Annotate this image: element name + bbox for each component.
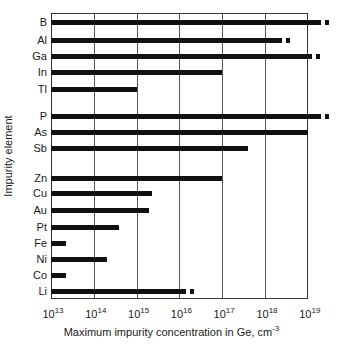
y-label-in: In xyxy=(38,66,47,78)
y-label-fe: Fe xyxy=(34,237,47,249)
extension-marker xyxy=(325,114,329,119)
bar-au xyxy=(51,208,149,213)
y-label-pt: Pt xyxy=(37,221,47,233)
y-label-al: Al xyxy=(37,34,47,46)
bar-pt xyxy=(51,225,119,230)
y-label-ga: Ga xyxy=(32,50,47,62)
bar-co xyxy=(51,273,66,278)
y-label-ni: Ni xyxy=(37,253,47,265)
x-tick-label: 1014 xyxy=(85,306,106,320)
y-label-au: Au xyxy=(34,204,47,216)
y-label-tl: Tl xyxy=(38,83,47,95)
y-label-sb: Sb xyxy=(34,142,47,154)
y-label-cu: Cu xyxy=(33,187,47,199)
x-tick-label: 1016 xyxy=(171,306,192,320)
y-axis-title: Impurity element xyxy=(2,115,14,196)
x-tick-label: 1017 xyxy=(214,306,235,320)
bar-cu xyxy=(51,191,152,196)
y-label-co: Co xyxy=(33,269,47,281)
x-axis-title-text: Maximum impurity concentration in Ge, cm xyxy=(64,326,272,338)
bar-li xyxy=(51,289,186,294)
bar-as xyxy=(51,130,308,135)
bar-tl xyxy=(51,87,137,92)
bar-ni xyxy=(51,257,107,262)
bar-fe xyxy=(51,241,66,246)
x-tick-label: 1015 xyxy=(128,306,149,320)
y-label-as: As xyxy=(34,126,47,138)
bar-in xyxy=(51,70,222,75)
extension-marker xyxy=(325,20,329,25)
y-label-li: Li xyxy=(38,285,47,297)
y-label-b: B xyxy=(40,16,47,28)
x-tick-label: 1019 xyxy=(299,306,320,320)
bar-p xyxy=(51,114,321,119)
y-label-zn: Zn xyxy=(34,172,47,184)
bar-b xyxy=(51,20,321,25)
x-tick-label: 1018 xyxy=(256,306,277,320)
y-label-p: P xyxy=(40,110,47,122)
x-tick-label: 1013 xyxy=(42,306,63,320)
bar-sb xyxy=(51,146,248,151)
bar-zn xyxy=(51,176,222,181)
extension-marker xyxy=(286,38,290,43)
x-axis-title: Maximum impurity concentration in Ge, cm… xyxy=(0,324,343,338)
x-axis-title-exponent: -3 xyxy=(272,324,279,333)
extension-marker xyxy=(316,54,320,59)
bar-ga xyxy=(51,54,312,59)
extension-marker xyxy=(190,289,194,294)
bar-al xyxy=(51,38,282,43)
impurity-concentration-chart: Impurity element BAlGaInTlPAsSbZnCuAuPtF… xyxy=(0,0,343,349)
